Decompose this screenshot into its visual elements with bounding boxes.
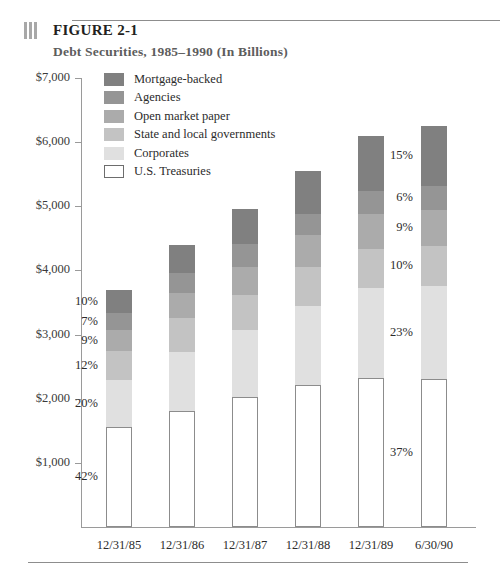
bar-percent-label: 42% bbox=[54, 469, 98, 484]
bar-segment[interactable] bbox=[232, 330, 258, 397]
bar-segment[interactable] bbox=[421, 246, 447, 286]
bar-segment[interactable] bbox=[295, 214, 321, 235]
bar-percent-label: 10% bbox=[369, 258, 413, 273]
legend-item: Agencies bbox=[104, 89, 275, 108]
footer-divider bbox=[28, 562, 468, 563]
y-tick-mark bbox=[75, 206, 81, 207]
bar-segment[interactable] bbox=[169, 411, 195, 527]
bar-segment[interactable] bbox=[295, 267, 321, 306]
bar-segment[interactable] bbox=[106, 427, 132, 527]
y-tick-label: $6,000 bbox=[12, 134, 70, 149]
bar-segment[interactable] bbox=[169, 318, 195, 352]
bar-percent-label: 23% bbox=[369, 325, 413, 340]
bar-segment[interactable] bbox=[295, 235, 321, 267]
bar-segment[interactable] bbox=[232, 267, 258, 296]
bar-percent-label: 15% bbox=[369, 148, 413, 163]
bar-column[interactable] bbox=[106, 290, 132, 527]
bar-segment[interactable] bbox=[232, 244, 258, 266]
bar-segment[interactable] bbox=[421, 186, 447, 210]
legend-label: Corporates bbox=[134, 146, 189, 161]
bar-percent-label: 9% bbox=[369, 220, 413, 235]
bar-segment[interactable] bbox=[421, 126, 447, 186]
legend-label: Agencies bbox=[134, 90, 181, 105]
x-axis-line bbox=[81, 527, 476, 528]
bar-segment[interactable] bbox=[295, 171, 321, 214]
legend-label: U.S. Treasuries bbox=[134, 164, 211, 179]
y-tick-mark bbox=[75, 78, 81, 79]
legend-label: Mortgage-backed bbox=[134, 72, 222, 87]
legend-swatch-icon bbox=[104, 147, 124, 160]
legend-swatch-icon bbox=[104, 91, 124, 104]
legend-swatch-icon bbox=[104, 128, 124, 141]
bar-percent-label: 7% bbox=[54, 314, 98, 329]
legend-item: U.S. Treasuries bbox=[104, 163, 275, 182]
legend-swatch-icon bbox=[104, 73, 124, 86]
bar-segment[interactable] bbox=[232, 209, 258, 244]
bar-segment[interactable] bbox=[169, 273, 195, 293]
bar-segment[interactable] bbox=[421, 286, 447, 378]
bar-percent-label: 12% bbox=[54, 358, 98, 373]
bar-segment[interactable] bbox=[232, 295, 258, 330]
bar-percent-label: 9% bbox=[54, 333, 98, 348]
x-tick-label: 6/30/90 bbox=[394, 538, 474, 553]
bar-percent-label: 37% bbox=[369, 445, 413, 460]
bar-column[interactable] bbox=[295, 171, 321, 527]
legend-label: State and local governments bbox=[134, 127, 275, 142]
bar-segment[interactable] bbox=[106, 290, 132, 314]
bar-segment[interactable] bbox=[169, 352, 195, 411]
bar-segment[interactable] bbox=[106, 313, 132, 330]
bar-segment[interactable] bbox=[295, 385, 321, 527]
bar-segment[interactable] bbox=[106, 351, 132, 379]
bar-segment[interactable] bbox=[106, 380, 132, 427]
chart-legend: Mortgage-backedAgenciesOpen market paper… bbox=[104, 70, 275, 181]
bar-segment[interactable] bbox=[295, 306, 321, 384]
bar-percent-label: 6% bbox=[369, 190, 413, 205]
y-tick-label: $4,000 bbox=[12, 262, 70, 277]
legend-item: Mortgage-backed bbox=[104, 70, 275, 89]
bar-segment[interactable] bbox=[421, 210, 447, 246]
bar-column[interactable] bbox=[232, 209, 258, 527]
bar-percent-label: 20% bbox=[54, 396, 98, 411]
bar-segment[interactable] bbox=[169, 293, 195, 318]
bar-segment[interactable] bbox=[169, 245, 195, 273]
y-tick-label: $5,000 bbox=[12, 198, 70, 213]
legend-item: Open market paper bbox=[104, 107, 275, 126]
legend-item: Corporates bbox=[104, 144, 275, 163]
legend-swatch-icon bbox=[104, 165, 124, 178]
bar-segment[interactable] bbox=[232, 397, 258, 527]
y-tick-mark bbox=[75, 142, 81, 143]
legend-swatch-icon bbox=[104, 110, 124, 123]
y-tick-label: $1,000 bbox=[12, 455, 70, 470]
legend-item: State and local governments bbox=[104, 126, 275, 145]
legend-label: Open market paper bbox=[134, 109, 230, 124]
bar-column[interactable] bbox=[169, 245, 195, 527]
bar-segment[interactable] bbox=[106, 330, 132, 351]
y-tick-label: $7,000 bbox=[12, 70, 70, 85]
bar-column[interactable] bbox=[421, 126, 447, 527]
y-tick-mark bbox=[75, 463, 81, 464]
y-tick-mark bbox=[75, 270, 81, 271]
bar-segment[interactable] bbox=[421, 379, 447, 527]
bar-percent-label: 10% bbox=[54, 294, 98, 309]
